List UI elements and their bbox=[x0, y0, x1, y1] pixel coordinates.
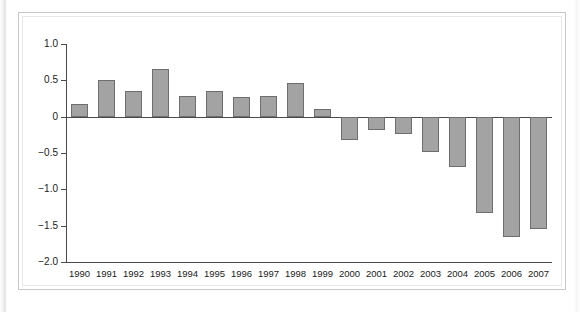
y-axis-tick-label: 1.0 bbox=[18, 39, 58, 49]
y-axis-tick bbox=[61, 262, 66, 263]
bar bbox=[233, 97, 251, 117]
bar bbox=[422, 117, 440, 153]
x-axis-tick-label: 2007 bbox=[525, 268, 552, 279]
bar bbox=[449, 117, 467, 167]
y-axis-tick-label: −0.5 bbox=[18, 148, 58, 158]
bar bbox=[125, 91, 143, 117]
y-axis-tick bbox=[61, 189, 66, 190]
x-axis-line bbox=[66, 262, 552, 263]
x-axis-tick-label: 2005 bbox=[471, 268, 498, 279]
y-axis-line bbox=[66, 44, 67, 263]
x-axis-tick-label: 1997 bbox=[255, 268, 282, 279]
x-axis-tick-label: 1991 bbox=[93, 268, 120, 279]
bar bbox=[395, 117, 413, 134]
y-axis-tick bbox=[61, 80, 66, 81]
bar bbox=[341, 117, 359, 140]
y-axis-tick bbox=[61, 153, 66, 154]
y-axis-tick bbox=[61, 226, 66, 227]
bar bbox=[476, 117, 494, 213]
figure-page: 1.00.50−0.5−1.0−1.5−2.0 1990199119921993… bbox=[0, 0, 580, 312]
x-axis-tick-label: 2002 bbox=[390, 268, 417, 279]
bar bbox=[530, 117, 548, 229]
bar bbox=[71, 104, 89, 117]
x-axis-tick-label: 2004 bbox=[444, 268, 471, 279]
y-axis-tick-label: −1.5 bbox=[18, 221, 58, 231]
x-axis-tick-label: 2006 bbox=[498, 268, 525, 279]
x-axis-tick-label: 2001 bbox=[363, 268, 390, 279]
x-axis-tick-label: 1994 bbox=[174, 268, 201, 279]
x-axis-tick-label: 1996 bbox=[228, 268, 255, 279]
y-axis-tick-label: −1.0 bbox=[18, 184, 58, 194]
bar bbox=[368, 117, 386, 131]
bar bbox=[206, 91, 224, 117]
bar-chart-plot-area: 1.00.50−0.5−1.0−1.5−2.0 1990199119921993… bbox=[0, 0, 580, 312]
y-axis-tick-label: −2.0 bbox=[18, 257, 58, 267]
x-axis-tick-label: 1992 bbox=[120, 268, 147, 279]
x-axis-tick-label: 1998 bbox=[282, 268, 309, 279]
x-axis-tick-label: 2000 bbox=[336, 268, 363, 279]
y-axis-tick-label: 0 bbox=[18, 112, 58, 122]
y-axis-tick-label: 0.5 bbox=[18, 75, 58, 85]
bar bbox=[314, 109, 332, 116]
y-axis-tick bbox=[61, 44, 66, 45]
bar bbox=[287, 83, 305, 116]
bar bbox=[503, 117, 521, 237]
bar bbox=[152, 69, 170, 116]
y-axis-tick bbox=[61, 117, 66, 118]
x-axis-tick-label: 1999 bbox=[309, 268, 336, 279]
x-axis-tick-label: 1995 bbox=[201, 268, 228, 279]
x-axis-tick-label: 1990 bbox=[66, 268, 93, 279]
bar bbox=[179, 96, 197, 117]
bar bbox=[260, 96, 278, 117]
bar bbox=[98, 80, 116, 117]
x-axis-tick-label: 1993 bbox=[147, 268, 174, 279]
x-axis-tick-label: 2003 bbox=[417, 268, 444, 279]
